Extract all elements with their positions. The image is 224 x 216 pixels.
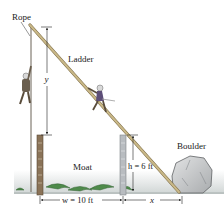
diagram-canvas: Rope Ladder Moat Boulder y h = 6 ft w = …: [0, 0, 224, 216]
moat-ladder-diagram: Rope Ladder Moat Boulder y h = 6 ft w = …: [0, 0, 224, 216]
x-label: x: [149, 195, 154, 205]
rope-label: Rope: [12, 12, 31, 22]
left-wall-post: [37, 135, 43, 195]
y-label: y: [44, 74, 49, 84]
climber-on-ladder: [88, 85, 115, 112]
climber-on-rope: [20, 66, 31, 104]
rope-leader-line: [21, 22, 30, 36]
boulder-label: Boulder: [177, 141, 206, 151]
fence-post: [120, 135, 126, 195]
moat-label: Moat: [73, 162, 92, 172]
h-label: h = 6 ft: [128, 161, 153, 171]
w-label: w = 10 ft: [62, 195, 94, 205]
ladder-label: Ladder: [68, 54, 93, 64]
boulder: [172, 156, 212, 193]
